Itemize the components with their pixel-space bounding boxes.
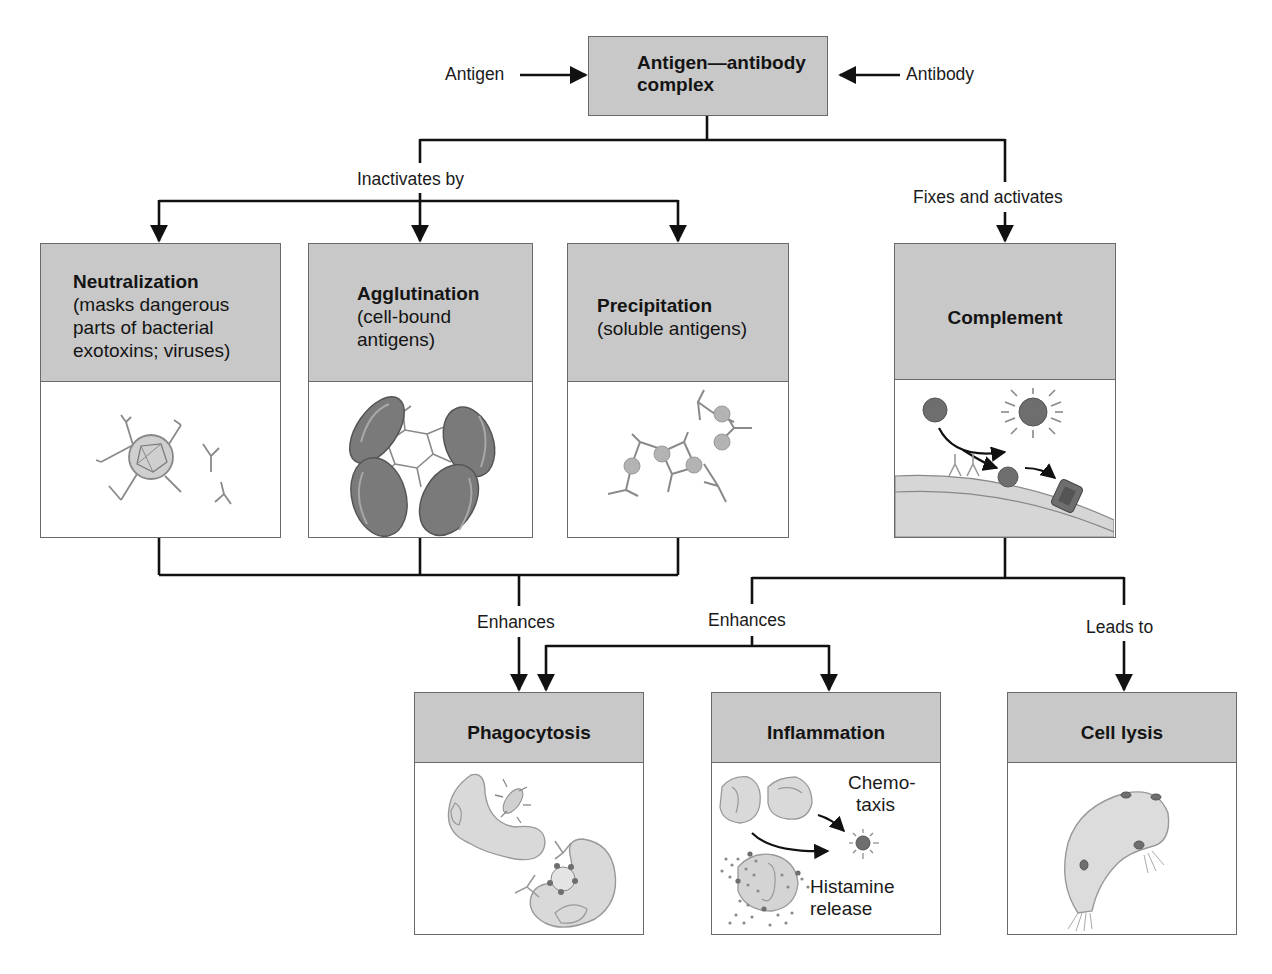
cell-lysis-header: Cell lysis [1008,693,1236,763]
precipitated-antigens-illustration [568,382,787,537]
neutralization-title: Neutralization [73,271,199,292]
phagocytosis-header: Phagocytosis [415,693,643,763]
precipitation-header: Precipitation (soluble antigens) [568,244,788,382]
neutralization-header: Neutralization (masks dangerous parts of… [41,244,280,382]
inflammation-box: Inflammation Chemo- t [711,692,941,935]
chemotaxis-line2: taxis [848,794,895,815]
neutralization-desc-2: parts of bacterial [73,316,230,339]
inactivates-by-label: Inactivates by [357,169,464,190]
virus-neutralized-illustration [41,382,279,537]
chemotaxis-label: Chemo- taxis [848,772,916,816]
complement-box: Complement [894,243,1116,538]
precipitation-box: Precipitation (soluble antigens) [567,243,789,538]
complex-title: Antigen—antibody complex [637,52,806,96]
histamine-line1: Histamine [810,876,894,897]
neutralization-desc-1: (masks dangerous [73,293,230,316]
antigen-label: Antigen [445,64,504,85]
agglutination-header: Agglutination (cell-bound antigens) [309,244,532,382]
cell-lysis-title: Cell lysis [1081,722,1163,743]
agglutination-box: Agglutination (cell-bound antigens) [308,243,533,538]
cell-lysis-box: Cell lysis [1007,692,1237,935]
histamine-line2: release [810,898,872,919]
lysed-cell-illustration [1008,763,1235,934]
antigen-antibody-complex-box: Antigen—antibody complex [588,36,828,116]
leads-to-label: Leads to [1086,617,1153,638]
enhances-label-1: Enhances [477,612,555,633]
agglutination-title: Agglutination [357,283,479,304]
antibody-label: Antibody [906,64,974,85]
inflammation-title: Inflammation [767,722,885,743]
fixes-and-activates-label: Fixes and activates [913,187,1063,208]
chemotaxis-line1: Chemo- [848,772,916,793]
phagocytosis-box: Phagocytosis [414,692,644,935]
complement-activation-illustration [895,380,1114,537]
inflammation-header: Inflammation [712,693,940,763]
neutralization-box: Neutralization (masks dangerous parts of… [40,243,281,538]
agglutinated-cells-illustration [309,382,531,537]
complex-title-line2: complex [637,74,714,95]
precipitation-desc-1: (soluble antigens) [597,317,747,340]
agglutination-desc-1: (cell-bound [357,305,479,328]
neutralization-desc-3: exotoxins; viruses) [73,339,230,362]
phagocytosis-illustration [415,763,642,934]
precipitation-title: Precipitation [597,295,712,316]
agglutination-desc-2: antigens) [357,328,479,351]
complex-title-line1: Antigen—antibody [637,52,806,73]
complement-title: Complement [947,307,1062,328]
histamine-release-label: Histamine release [810,876,894,920]
enhances-label-2: Enhances [708,610,786,631]
complement-header: Complement [895,244,1115,380]
phagocytosis-title: Phagocytosis [467,722,591,743]
